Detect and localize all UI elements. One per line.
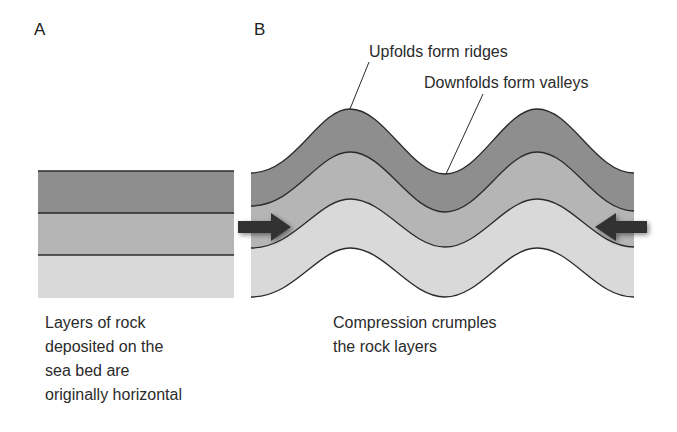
panel-b-caption: Compression crumples the rock layers <box>333 311 497 359</box>
folded-layers <box>251 109 634 297</box>
layer-bottom-flat <box>38 255 234 298</box>
caption-line: Compression crumples <box>333 311 497 335</box>
layer-middle-flat <box>38 213 234 255</box>
horizontal-layers <box>38 171 234 298</box>
caption-line: originally horizontal <box>45 383 182 407</box>
upfolds-leader-line <box>350 62 369 109</box>
caption-line: sea bed are <box>45 359 182 383</box>
layer-top-flat <box>38 171 234 213</box>
panel-a-caption: Layers of rock deposited on the sea bed … <box>45 311 182 407</box>
caption-line: Layers of rock <box>45 311 182 335</box>
caption-line: the rock layers <box>333 335 497 359</box>
caption-line: deposited on the <box>45 335 182 359</box>
